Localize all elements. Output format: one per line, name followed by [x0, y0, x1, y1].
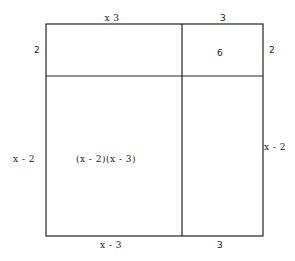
- outer-square: [46, 24, 263, 236]
- left-label-bottom: x - 2: [13, 154, 35, 164]
- top-label-right: 3: [220, 13, 226, 23]
- region-top-right-label: 6: [217, 48, 223, 58]
- region-bottom-left-label: (x - 2)(x - 3): [76, 154, 136, 164]
- right-label-bottom: x - 2: [264, 142, 286, 152]
- right-label-top: 2: [269, 45, 275, 55]
- top-label-left: x 3: [104, 13, 119, 23]
- left-label-top: 2: [34, 45, 40, 55]
- bottom-label-left: x - 3: [100, 240, 122, 250]
- bottom-label-right: 3: [217, 240, 223, 250]
- area-model-diagram: [0, 0, 295, 261]
